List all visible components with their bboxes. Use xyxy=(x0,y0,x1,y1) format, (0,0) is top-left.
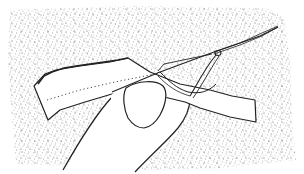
illustration-svg xyxy=(0,0,304,174)
sewing-illustration xyxy=(0,0,304,174)
